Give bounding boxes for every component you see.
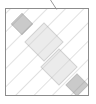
hatch-overlay-area <box>6 9 89 96</box>
shape-group <box>6 9 89 97</box>
hatch-overlay <box>6 9 89 96</box>
figure-container <box>0 0 96 104</box>
geometric-diagram <box>0 0 96 104</box>
